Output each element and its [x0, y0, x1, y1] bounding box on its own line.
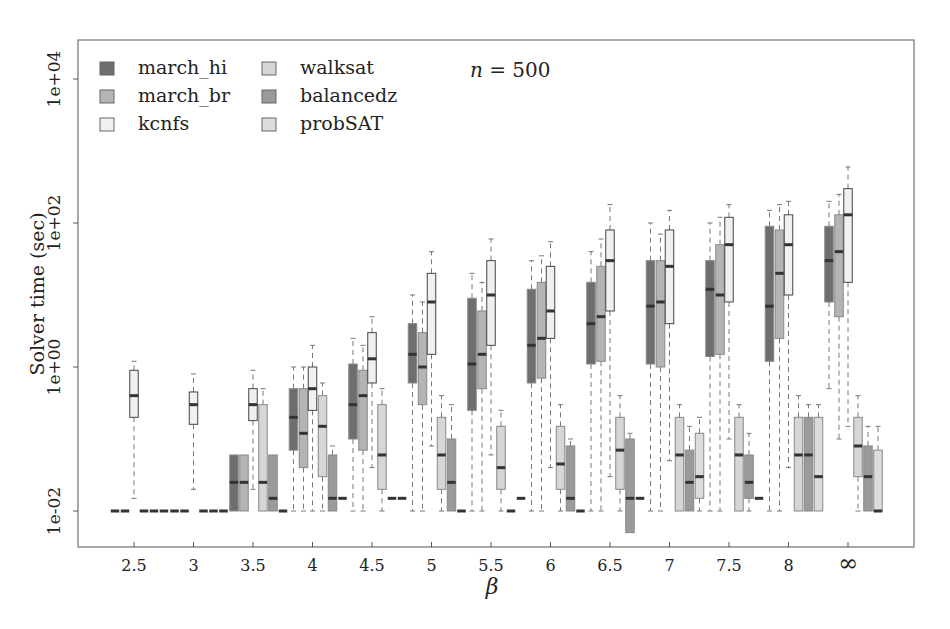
annotation-n: n = 500	[470, 58, 551, 82]
box	[606, 230, 615, 311]
x-axis-title: β	[485, 574, 499, 599]
chart-canvas: 1e-021e+001e+021e+04Solver time (sec)2.5…	[0, 0, 950, 629]
legend-swatch-march-br	[100, 90, 114, 103]
box	[468, 298, 477, 410]
legend-swatch-probSAT	[262, 118, 276, 131]
box	[626, 439, 635, 533]
box	[359, 370, 368, 450]
box	[487, 261, 496, 346]
x-tick-label: 3	[188, 556, 198, 575]
legend-label-kcnfs: kcnfs	[138, 112, 189, 134]
x-tick-label: 5	[426, 556, 436, 575]
box	[864, 446, 873, 511]
box	[794, 417, 803, 511]
box	[835, 215, 844, 317]
box	[725, 217, 734, 302]
legend-swatch-walksat	[262, 62, 276, 75]
box	[189, 392, 198, 424]
box	[349, 364, 358, 439]
box	[616, 417, 625, 489]
legend-swatch-balancedz	[262, 90, 276, 103]
box	[597, 266, 606, 361]
x-tick-label: 5.5	[478, 556, 503, 575]
x-tick-label: 4	[307, 556, 317, 575]
legend-swatch-march-hi	[100, 62, 114, 75]
box	[556, 426, 565, 489]
legend-label-walksat: walksat	[300, 56, 374, 78]
x-tick-label: 6	[545, 556, 555, 575]
box	[130, 370, 139, 417]
legend-label-march-br: march_br	[138, 84, 231, 107]
x-tick-label: 6.5	[597, 556, 622, 575]
boxplot-chart: 1e-021e+001e+021e+04Solver time (sec)2.5…	[0, 0, 950, 629]
box	[478, 311, 487, 389]
legend-label-march-hi: march_hi	[138, 56, 227, 79]
box	[497, 426, 506, 489]
box	[299, 389, 308, 468]
box	[685, 450, 694, 511]
box	[328, 455, 337, 511]
box	[566, 446, 575, 511]
box	[745, 455, 754, 498]
y-axis-title: Solver time (sec)	[26, 212, 48, 375]
box	[289, 389, 298, 450]
box	[437, 417, 446, 489]
box	[259, 405, 268, 511]
box	[775, 230, 784, 338]
x-tick-label: 8	[783, 556, 793, 575]
x-tick-label: 2.5	[121, 556, 146, 575]
box	[804, 417, 813, 511]
box	[418, 333, 427, 405]
box	[537, 282, 546, 378]
y-tick-label: 1e+04	[44, 51, 64, 108]
box	[716, 245, 725, 355]
box	[378, 405, 387, 490]
box	[814, 417, 823, 511]
box	[527, 289, 536, 383]
box	[825, 226, 834, 302]
legend-swatch-kcnfs	[100, 118, 114, 131]
box	[706, 261, 715, 357]
box	[874, 450, 883, 511]
box	[765, 226, 774, 361]
x-tick-label: 3.5	[240, 556, 265, 575]
box	[784, 215, 793, 295]
box	[665, 230, 674, 324]
x-tick-label: 4.5	[359, 556, 384, 575]
box	[447, 439, 456, 511]
box	[675, 417, 684, 511]
legend-label-probSAT: probSAT	[300, 112, 384, 134]
box	[735, 417, 744, 511]
x-tick-label: 7.5	[716, 556, 741, 575]
box	[844, 189, 853, 283]
box	[318, 396, 327, 477]
box	[646, 261, 655, 364]
box	[656, 261, 665, 367]
box	[269, 455, 278, 511]
box	[546, 266, 555, 338]
box	[427, 273, 436, 354]
x-tick-label: ∞	[838, 549, 858, 577]
x-tick-label: 7	[664, 556, 674, 575]
box	[695, 433, 704, 498]
y-tick-label: 1e-02	[44, 487, 64, 535]
legend-label-balancedz: balancedz	[300, 84, 397, 106]
